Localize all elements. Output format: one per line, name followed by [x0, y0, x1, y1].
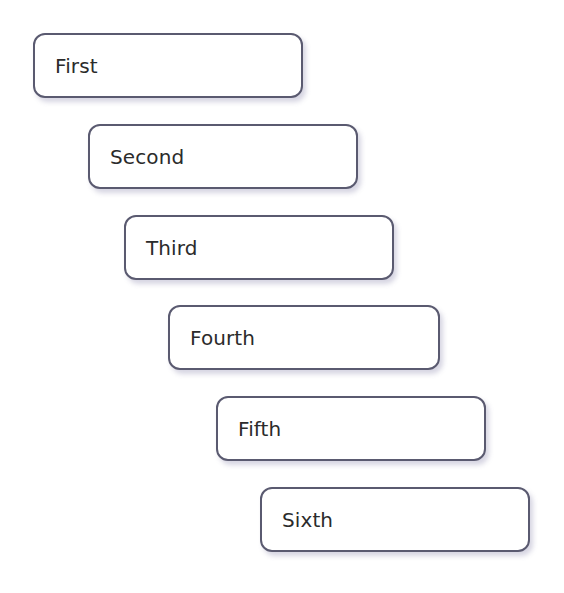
step-box-fifth[interactable]: Fifth — [216, 396, 486, 461]
step-label: First — [35, 56, 98, 76]
step-box-third[interactable]: Third — [124, 215, 394, 280]
step-box-sixth[interactable]: Sixth — [260, 487, 530, 552]
step-box-first[interactable]: First — [33, 33, 303, 98]
step-label: Second — [90, 147, 184, 167]
step-label: Sixth — [262, 510, 333, 530]
step-box-second[interactable]: Second — [88, 124, 358, 189]
step-box-fourth[interactable]: Fourth — [168, 305, 440, 370]
step-label: Fifth — [218, 419, 281, 439]
step-label: Fourth — [170, 328, 255, 348]
step-label: Third — [126, 238, 198, 258]
diagram-canvas: First Second Third Fourth Fifth Sixth — [0, 0, 564, 593]
